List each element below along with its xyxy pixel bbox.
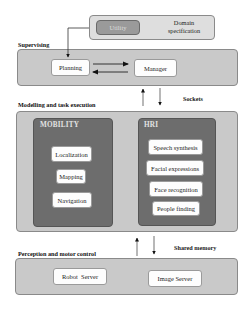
manager-node: Manager [134,59,177,77]
supervising-label: Supervising [18,41,49,48]
facial-expressions-node: Facial expressions [146,160,204,176]
people-finding-node: People finding [152,201,200,216]
localization-node: Localization [51,146,92,162]
utility-node: Utility [96,20,140,35]
perception-label: Perception and motor control [18,250,96,257]
modelling-label: Modelling and task execution [18,101,96,108]
domain-specification-label: Domain specification [158,19,210,34]
domain-line-1: Domain [158,19,210,27]
utility-label: Utility [110,24,127,31]
image-server-node: Image Server [148,270,202,287]
mobility-title: MOBILITY [40,121,79,129]
navigation-node: Navigation [52,192,92,208]
planning-node: Planning [51,59,90,76]
shared-memory-label: Shared memory [174,244,216,251]
speech-synthesis-node: Speech synthesis [148,139,203,155]
domain-line-2: specification [158,27,210,35]
sockets-label: Sockets [183,95,203,102]
robot-server-node: Robot Server [53,268,107,285]
mapping-node: Mapping [56,169,86,184]
perception-panel [15,258,238,295]
hri-title: HRI [144,121,158,129]
face-recognition-node: Face recognition [149,181,203,197]
